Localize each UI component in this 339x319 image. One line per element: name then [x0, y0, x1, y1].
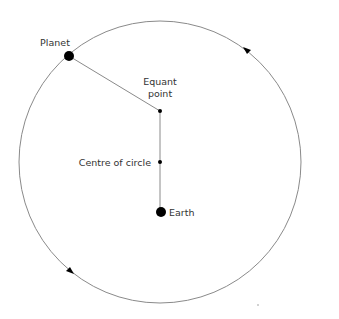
planet-dot — [64, 51, 74, 61]
earth-dot — [156, 207, 166, 217]
equant-point-dot — [158, 109, 162, 113]
equant-label-line2: point — [148, 88, 173, 99]
earth-label: Earth — [169, 207, 194, 218]
centre-of-circle-label: Centre of circle — [79, 157, 151, 168]
equant-label-line1: Equant — [143, 76, 177, 87]
equant-diagram: Planet Equant point Centre of circle Ear… — [0, 0, 339, 319]
planet-label: Planet — [40, 37, 70, 48]
centre-of-circle-dot — [158, 160, 162, 164]
stray-mark — [257, 304, 259, 306]
